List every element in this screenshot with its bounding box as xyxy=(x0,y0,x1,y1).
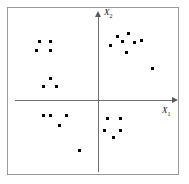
data-point xyxy=(78,149,81,152)
data-point xyxy=(109,44,112,47)
data-point xyxy=(106,117,109,120)
data-point xyxy=(112,136,115,139)
y-axis-arrowhead xyxy=(95,11,101,17)
plot-frame xyxy=(7,7,179,175)
y-axis-line xyxy=(98,16,99,172)
y-axis-label-subscript: 2 xyxy=(110,13,113,19)
data-point xyxy=(133,41,136,44)
data-point xyxy=(49,40,52,43)
data-point xyxy=(35,49,38,52)
data-point xyxy=(151,67,154,70)
x-axis-label: X1 xyxy=(162,106,171,117)
data-point xyxy=(103,129,106,132)
data-point xyxy=(121,40,124,43)
data-point xyxy=(42,85,45,88)
x-axis-label-subscript: 1 xyxy=(168,111,171,117)
x-axis-arrowhead xyxy=(172,97,178,103)
data-point xyxy=(65,114,68,117)
data-point xyxy=(140,39,143,42)
data-point xyxy=(42,114,45,117)
data-point xyxy=(119,129,122,132)
data-point xyxy=(127,32,130,35)
data-point xyxy=(49,49,52,52)
data-point xyxy=(58,124,61,127)
data-point xyxy=(125,51,128,54)
data-point xyxy=(119,117,122,120)
y-axis-label: X2 xyxy=(104,8,113,19)
data-point xyxy=(38,40,41,43)
x-axis-line xyxy=(15,100,176,101)
data-point xyxy=(55,85,58,88)
scatter-plot-figure: X2 X1 xyxy=(0,0,189,184)
data-point xyxy=(116,35,119,38)
data-point xyxy=(49,77,52,80)
data-point xyxy=(49,114,52,117)
